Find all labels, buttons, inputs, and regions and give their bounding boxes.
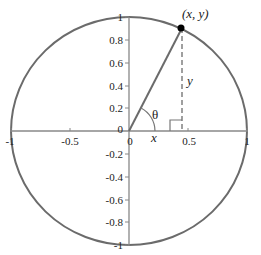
y-tick-label: -0.2 xyxy=(106,148,123,160)
right-angle-marker xyxy=(170,120,182,131)
y-tick-label: 0.2 xyxy=(109,102,123,114)
y-tick-label: 0.6 xyxy=(109,57,123,69)
y-tick-label: 0 xyxy=(118,123,124,135)
x-tick-label: 0 xyxy=(127,135,133,147)
point-marker xyxy=(178,25,185,32)
point-label: (x, y) xyxy=(182,6,209,21)
unit-circle-diagram: -1 -0.5 0 0.5 1 1 0.8 0.6 0.4 0.2 0 -0.2… xyxy=(0,0,261,255)
y-tick-label: -0.6 xyxy=(106,194,124,206)
y-tick-label: -1 xyxy=(114,239,123,251)
y-tick-label: -0.4 xyxy=(106,171,124,183)
x-tick-label: -1 xyxy=(5,135,14,147)
x-segment-label: x xyxy=(150,130,157,145)
x-tick-label: 1 xyxy=(244,135,250,147)
y-tick-label: 1 xyxy=(118,11,124,23)
y-tick-label: 0.8 xyxy=(109,34,123,46)
y-tick-label: 0.4 xyxy=(109,80,123,92)
angle-theta-label: θ xyxy=(152,107,158,122)
x-tick-label: -0.5 xyxy=(61,135,79,147)
y-segment-label: y xyxy=(185,73,193,88)
x-tick-label: 0.5 xyxy=(182,135,196,147)
y-tick-label: -0.8 xyxy=(106,216,124,228)
